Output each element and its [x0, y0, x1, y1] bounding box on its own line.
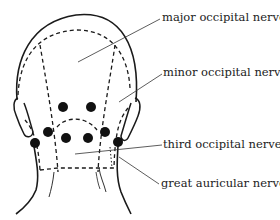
occipital-nerve-diagram: major occipital nerve minor occipital ne…: [0, 0, 280, 220]
central-dashed-arch: [57, 119, 97, 130]
injection-point: [43, 127, 53, 137]
label-great-auricular-nerve: great auricular nerve: [161, 178, 280, 190]
leader-line-great: [119, 157, 159, 184]
injection-point: [30, 138, 40, 148]
injection-points: [30, 102, 123, 148]
injection-point: [113, 137, 123, 147]
right-ear: [121, 98, 140, 140]
injection-point: [100, 127, 110, 137]
neck-left: [16, 140, 38, 214]
injection-point: [83, 133, 93, 143]
inner-dashed-right: [98, 45, 115, 172]
injection-point: [58, 102, 68, 112]
neck-right: [117, 146, 131, 214]
injection-point: [86, 102, 96, 112]
outer-dashed-boundary: [18, 30, 130, 95]
neck-muscle-right-2: [96, 172, 100, 189]
label-third-occipital-nerve: third occipital nerve: [163, 139, 280, 151]
leader-line-major: [78, 19, 160, 62]
head-outline: [17, 15, 137, 102]
neck-muscle-left: [49, 172, 54, 197]
injection-point: [61, 133, 71, 143]
label-major-occipital-nerve: major occipital nerve: [162, 12, 280, 24]
inner-dashed-left: [40, 45, 58, 172]
label-minor-occipital-nerve: minor occipital nerve: [163, 67, 280, 79]
bottom-dashed-line: [40, 168, 115, 170]
leader-line-minor: [119, 74, 162, 102]
left-ear: [14, 98, 33, 137]
